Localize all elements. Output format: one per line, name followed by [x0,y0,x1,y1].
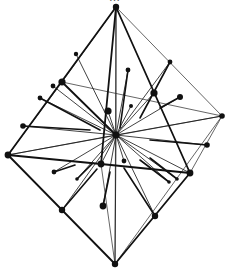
atom-ball-icon [219,113,225,119]
atom-ball-icon [20,123,26,129]
octahedron-crystal-diagram [0,0,230,268]
atom-ball-icon [150,89,157,96]
atom-ball-icon [51,84,56,89]
atom-ball-icon [38,96,43,101]
bold-edge-line [101,164,190,173]
atom-ball-icon [75,177,79,181]
bold-edge-line [101,7,116,164]
atom-ball-icon [113,4,119,10]
atom-ball-icon [168,60,173,65]
spoke-line [62,135,116,210]
thin-edge-line [115,116,222,264]
atom-ball-icon [129,104,133,108]
stick-segment [62,169,97,210]
bold-edge-line [8,155,101,164]
thin-edge-line [62,82,222,116]
stick-segment [40,98,100,130]
atom-ball-icon [122,159,127,164]
atom-ball-icon [152,213,158,219]
atom-ball-icon [59,207,65,213]
spoke-line [116,135,155,216]
atom-ball-icon [167,180,171,184]
atom-ball-icon [112,131,119,138]
atom-ball-icon [204,142,210,148]
atom-ball-icon [112,261,118,267]
atom-ball-icon [98,161,105,168]
atom-ball-icon [187,170,194,177]
atom-ball-icon [5,152,12,159]
atom-ball-icon [58,78,65,85]
bold-edge-line [115,173,190,264]
atom-ball-icon [74,52,78,56]
bold-edge-lines [8,7,190,264]
stick-segment [150,140,207,145]
atom-ball-icon [177,94,183,100]
stick-segment [124,168,155,216]
atom-ball-icon [100,203,107,210]
atom-ball-icon [104,107,111,114]
atom-ball-icon [126,68,131,73]
atom-ball-icon [175,177,179,181]
atom-ball-icon [52,170,57,175]
